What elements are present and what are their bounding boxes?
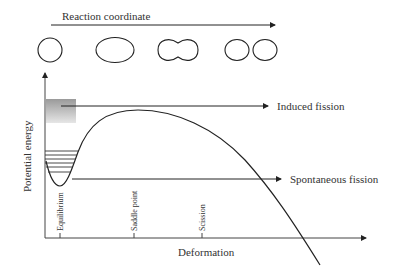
sphere-shape bbox=[38, 38, 62, 62]
x-ticks bbox=[60, 233, 202, 238]
fragment-right-shape bbox=[253, 40, 277, 61]
fragment-left-shape bbox=[225, 40, 249, 61]
tick-label-equilibrium: Equilibrium bbox=[56, 192, 65, 231]
y-axis-label: Potential energy bbox=[21, 120, 33, 192]
fission-diagram: Reaction coordinate Potential energy Def… bbox=[0, 0, 393, 278]
induced-fission-label: Induced fission bbox=[277, 100, 345, 112]
spontaneous-fission-label: Spontaneous fission bbox=[290, 173, 379, 185]
x-axis-label: Deformation bbox=[178, 246, 235, 258]
energy-levels bbox=[45, 151, 79, 172]
tick-label-scission: Scission bbox=[198, 204, 207, 231]
spontaneous-fission: Spontaneous fission bbox=[72, 173, 379, 185]
necked-shape bbox=[158, 40, 198, 61]
ellipsoid-shape bbox=[96, 38, 134, 63]
reaction-coordinate-label: Reaction coordinate bbox=[62, 10, 150, 22]
potential-curve bbox=[46, 110, 320, 265]
reaction-coordinate: Reaction coordinate bbox=[51, 10, 275, 25]
induced-fission: Induced fission bbox=[61, 100, 345, 112]
shape-sequence bbox=[38, 38, 277, 63]
tick-label-saddle-point: Saddle point bbox=[130, 190, 139, 231]
excitation-band bbox=[46, 99, 76, 123]
